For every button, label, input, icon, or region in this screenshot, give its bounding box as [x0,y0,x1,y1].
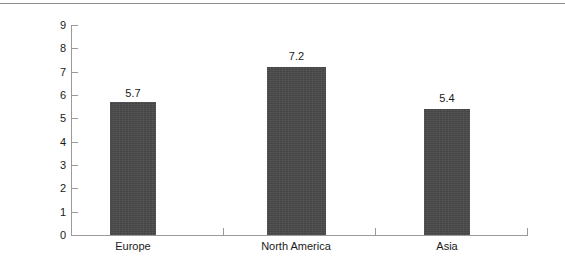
x-axis-separator-tick-2 [375,228,376,236]
y-axis-tick-5 [72,118,78,119]
y-axis-label-4-wrap: 4 [36,137,66,148]
y-axis-label-8: 8 [38,43,66,54]
y-axis-label-8-wrap: 8 [36,43,66,54]
category-label-asia: Asia [417,240,477,253]
y-axis-label-6: 6 [38,90,66,101]
category-label-north-america: North America [248,240,344,253]
y-axis-tick-8 [72,48,78,49]
y-axis-label-5: 5 [38,113,66,124]
y-axis-tick-7 [72,72,78,73]
y-axis-label-1-wrap: 1 [36,207,66,218]
y-axis-tick-6 [72,95,78,96]
y-axis-label-6-wrap: 6 [36,90,66,101]
y-axis-label-0: 0 [38,230,66,241]
y-axis-label-7: 7 [38,67,66,78]
y-axis-label-3: 3 [38,160,66,171]
y-axis-label-9: 9 [38,20,66,31]
y-axis-label-3-wrap: 3 [36,160,66,171]
y-axis-tick-3 [72,165,78,166]
bar-north-america[interactable] [267,67,326,235]
x-axis-separator-tick-1 [223,228,224,236]
category-label-europe: Europe [95,240,171,253]
bar-chart-plot-area: 9 8 7 6 5 4 3 2 1 [0,0,565,263]
y-axis-label-7-wrap: 7 [36,67,66,78]
bar-value-europe: 5.7 [110,87,156,99]
y-axis-label-0-wrap: 0 [36,230,66,241]
x-axis-separator-tick-3 [527,228,528,236]
y-axis-tick-2 [72,188,78,189]
y-axis-label-4: 4 [38,137,66,148]
y-axis-label-5-wrap: 5 [36,113,66,124]
y-axis-label-2: 2 [38,183,66,194]
y-axis-label-1: 1 [38,207,66,218]
y-axis-label-2-wrap: 2 [36,183,66,194]
bar-asia[interactable] [424,109,470,235]
y-axis-tick-4 [72,142,78,143]
y-axis-tick-9 [72,25,78,26]
bar-value-north-america: 7.2 [267,50,326,62]
y-axis-label-9-wrap: 9 [36,20,66,31]
bar-europe[interactable] [110,102,156,235]
y-axis-tick-1 [72,212,78,213]
bar-value-asia: 5.4 [424,92,470,104]
x-axis-line [71,235,528,236]
y-axis-line [71,25,72,236]
chart-page: 9 8 7 6 5 4 3 2 1 [0,0,565,263]
